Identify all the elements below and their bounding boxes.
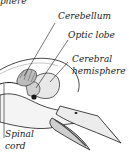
eye [31, 94, 36, 99]
label-spinal-line2: cord [5, 141, 26, 151]
leader-cerebellum [24, 23, 55, 76]
label-cerebral-line1: Cerebral [72, 54, 112, 64]
label-cerebellum: Cerebellum [58, 11, 111, 21]
nostril [75, 112, 78, 114]
label-hemisphere-cut: phere [0, 0, 27, 6]
label-spinal-line1: Spinal [5, 129, 34, 139]
leader-cerebral [50, 62, 68, 82]
label-cerebral-line2: hemisphere [72, 66, 126, 76]
label-optic-lobe: Optic lobe [68, 30, 115, 40]
spinal-cord [0, 83, 18, 85]
